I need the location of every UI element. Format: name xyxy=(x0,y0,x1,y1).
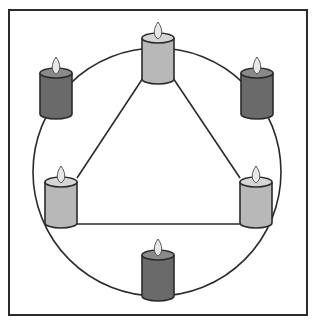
candle-diagram xyxy=(0,0,314,323)
